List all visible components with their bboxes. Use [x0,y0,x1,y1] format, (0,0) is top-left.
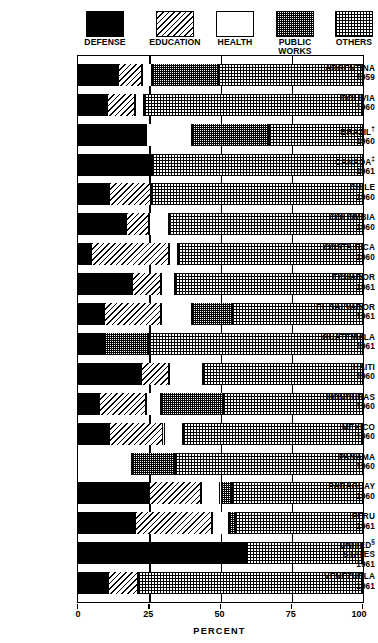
country-label: CANADA‡1961 [302,154,378,177]
chart-figure: DEFENSEEDUCATIONHEALTHPUBLIC WORKSOTHERS… [0,0,378,643]
bar-segment-education [141,363,170,385]
country-name: HAITI [353,363,375,372]
country-label: PERU1961 [302,512,378,531]
country-name: PANAMA [339,453,375,462]
country-label: MEXICO1960 [302,423,378,442]
bar-segment-education [109,423,163,445]
country-label: HAITI1960 [302,363,378,382]
bar-segment-defense [78,572,108,594]
country-name: CHILE [350,183,375,192]
country-name: ARGENTINA [325,64,375,73]
legend-item-education: EDUCATION [139,11,211,47]
country-year: 1961 [356,312,375,321]
bar-segment-defense [78,183,109,205]
x-axis: 0255075100 [77,604,362,643]
bar-segment-public [152,64,218,86]
bar-segment-defense [78,243,91,265]
bar-segment-health [212,512,229,534]
country-label: COSTA RICA1960 [302,243,378,262]
bar-segment-health [164,423,184,445]
bar-segment-defense [78,124,146,146]
country-year: 1960 [356,402,375,411]
bar-segment-education [149,482,200,504]
country-name: COLOMBIA [329,213,375,222]
country-year: 1960 [356,253,375,262]
bar-segment-health [169,363,203,385]
bar-segment-health [142,64,152,86]
country-year: 1960 [356,462,375,471]
country-name: VENEZUELA [324,572,375,581]
bar-segment-health [146,124,192,146]
country-year: 1961 [356,560,375,569]
bar-segment-public [104,333,150,355]
country-label: BRAZIL†1960 [302,124,378,147]
bar-segment-defense [78,423,109,445]
legend-label-public: PUBLIC WORKS [271,38,319,56]
swatch-light-checker [335,11,373,37]
bar-segment-defense [78,482,149,504]
bar-segment-education [104,303,161,325]
country-year: 1961 [356,167,375,176]
country-year: 1960 [356,432,375,441]
axis-tick-label-50: 50 [214,609,224,619]
country-year: 1960 [356,372,375,381]
bar-segment-defense [78,542,246,564]
country-name: COSTA RICA [323,243,375,252]
bar-segment-health [169,243,178,265]
legend-item-defense: DEFENSE [76,11,134,47]
bar-segment-education [107,94,136,116]
bar-segment-education [132,273,161,295]
country-label: PARAGUAY1960 [302,482,378,501]
bar-segment-education [108,572,138,594]
bar-segment-education [91,243,169,265]
legend-item-health: HEALTH [210,11,260,47]
swatch-dense-checker [276,11,314,37]
country-name: CANADA [335,157,371,166]
country-year: 1961 [356,283,375,292]
footnote-marker: ‡ [371,155,375,162]
bar-segment-public [192,124,269,146]
bar-segment-defense [78,512,135,534]
bar-segment-health [161,303,192,325]
bar-segment-defense [78,94,107,116]
bar-segment-health [78,453,132,475]
bar-segment-education [118,64,142,86]
bar-segment-public [132,453,175,475]
legend-item-public: PUBLIC WORKS [271,11,319,56]
country-name: GUATEMALA [322,333,375,342]
bar-segment-defense [78,213,126,235]
country-label: GUATEMALA1961 [302,333,378,352]
country-year: 1960 [356,492,375,501]
bar-segment-public [221,482,232,504]
axis-tick-label-25: 25 [143,609,153,619]
x-axis-title: PERCENT [77,626,362,636]
footnote-marker: † [371,125,375,132]
axis-tick-label-0: 0 [75,609,80,619]
country-year: 1960 [356,103,375,112]
country-year: 1960 [356,193,375,202]
bar-segment-defense [78,363,141,385]
bar-segment-health [146,393,160,415]
country-label: CHILE1960 [302,183,378,202]
bar-segment-defense [78,64,118,86]
country-label: ARGENTINA1959 [302,64,378,83]
axis-tick-label-100: 100 [351,609,366,619]
bar-segment-public [192,303,232,325]
cropped-header-text [118,0,278,8]
bar-segment-defense [78,333,104,355]
legend-label-health: HEALTH [210,38,260,47]
bar-segment-health [135,94,144,116]
country-year: 1960 [356,223,375,232]
country-name: UNITED§STATES [340,541,375,559]
chart-legend: DEFENSEEDUCATIONHEALTHPUBLIC WORKSOTHERS [76,11,372,51]
bar-segment-defense [78,273,132,295]
country-name: PARAGUAY [328,482,375,491]
country-name: MEXICO [342,423,375,432]
legend-label-defense: DEFENSE [76,38,134,47]
bar-segment-education [109,183,150,205]
country-name: EL SALVADOR [316,303,375,312]
country-year: 1961 [356,582,375,591]
bar-segment-education [135,512,212,534]
country-name: HONDURAS [326,393,375,402]
legend-item-others: OTHERS [330,11,378,47]
